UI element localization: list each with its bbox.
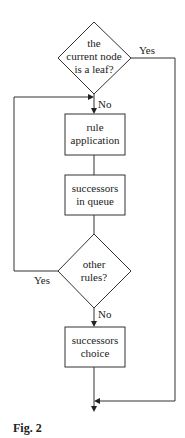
- decision-other-rules: other rules?: [58, 234, 131, 308]
- process-successors-choice: successors choice: [65, 327, 125, 367]
- svg-text:rule: rule: [86, 121, 103, 133]
- label-leaf-yes: Yes: [139, 44, 155, 56]
- label-rules-yes: Yes: [34, 274, 50, 286]
- arrow-down-icon: [91, 406, 97, 412]
- arrow-right-icon: [88, 94, 94, 100]
- svg-text:is a leaf?: is a leaf?: [74, 63, 113, 75]
- process-rule-application: rule application: [65, 114, 125, 155]
- svg-text:successors: successors: [72, 182, 118, 194]
- svg-text:choice: choice: [81, 347, 110, 359]
- svg-text:current node: current node: [66, 50, 121, 62]
- arrow-down-icon: [91, 321, 97, 327]
- arrow-down-icon: [91, 108, 97, 114]
- svg-text:rules?: rules?: [81, 271, 107, 283]
- svg-text:successors: successors: [72, 334, 118, 346]
- svg-text:other: other: [83, 258, 106, 270]
- flowchart: the current node is a leaf? rule applica…: [0, 0, 185, 438]
- svg-text:in queue: in queue: [76, 195, 114, 207]
- svg-text:the: the: [87, 37, 101, 49]
- label-rules-no: No: [98, 308, 112, 320]
- label-leaf-no: No: [98, 98, 112, 110]
- svg-text:application: application: [71, 134, 120, 146]
- figure-caption: Fig. 2: [13, 421, 42, 435]
- arrow-left-icon: [94, 398, 100, 404]
- process-successors-queue: successors in queue: [65, 175, 125, 215]
- decision-leaf-check: the current node is a leaf?: [58, 22, 131, 94]
